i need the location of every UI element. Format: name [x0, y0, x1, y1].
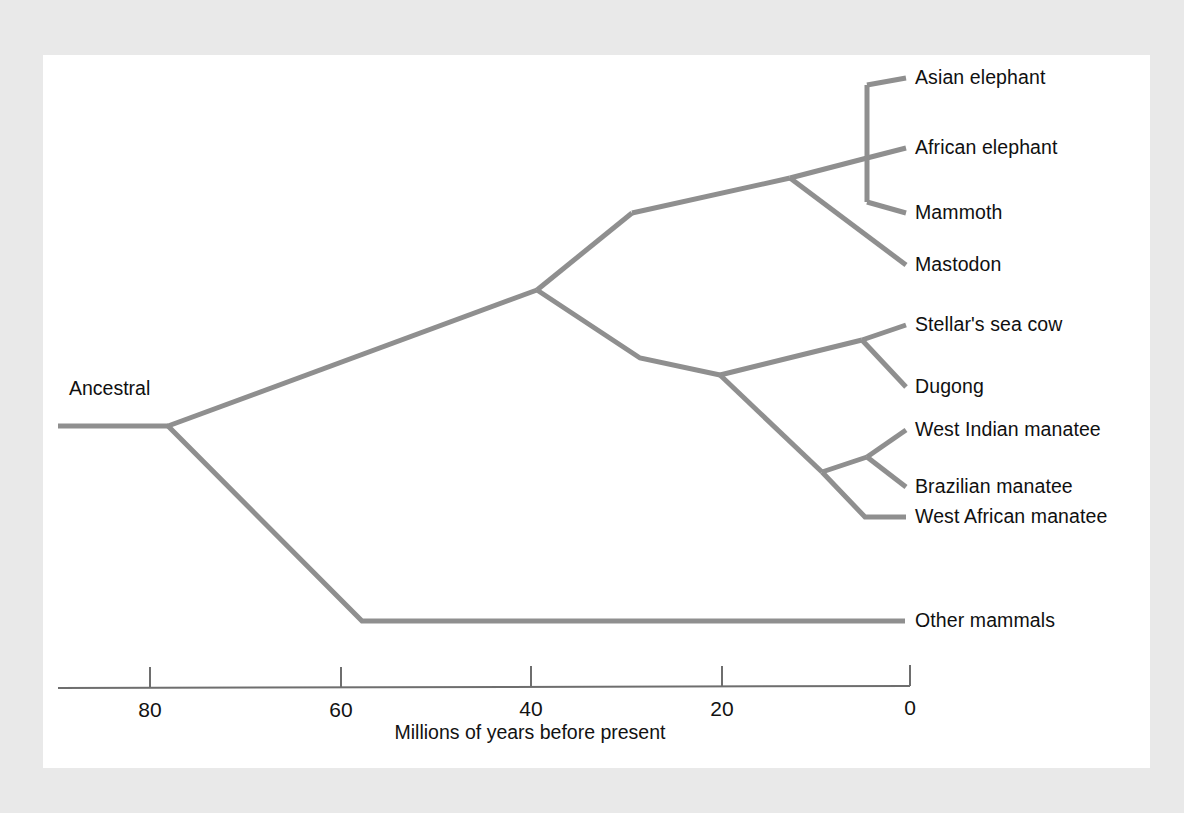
axis-tick-label-0: 0: [904, 697, 916, 718]
tree-branches: [58, 78, 906, 621]
branch-trichechidae-stem: [720, 375, 822, 472]
tip-label-brazilian-manatee: Brazilian manatee: [915, 477, 1073, 497]
tree-drawing: [0, 0, 1184, 813]
tip-label-mammoth: Mammoth: [915, 203, 1002, 223]
axis-title: Millions of years before present: [395, 723, 666, 743]
axis-tick-label-60: 60: [329, 699, 352, 720]
tip-label-other-mammals: Other mammals: [915, 611, 1055, 631]
tip-label-asian-elephant: Asian elephant: [915, 68, 1045, 88]
tip-label-dugong: Dugong: [915, 377, 984, 397]
tip-label-african-elephant: African elephant: [915, 138, 1058, 158]
branch-manatee-crown-stem: [822, 457, 867, 472]
phylogenetic-tree-figure: Ancestral Asian elephant African elephan…: [0, 0, 1184, 813]
branch-west-indian-manatee: [867, 430, 906, 457]
branch-root-to-other-mammals: [168, 426, 905, 621]
branch-root-to-tethytheria: [168, 290, 537, 426]
tip-label-stellars-sea-cow: Stellar's sea cow: [915, 315, 1062, 335]
branch-dugongidae-stem: [720, 340, 862, 375]
branch-dugong: [862, 340, 906, 387]
branch-mastodon: [790, 178, 906, 265]
axis-tick-label-40: 40: [519, 698, 542, 719]
branch-asian-elephant: [867, 78, 906, 85]
branch-tethytheria-to-proboscidea: [537, 213, 632, 290]
ancestral-node-label: Ancestral: [69, 379, 150, 399]
branch-proboscidea-trunk: [632, 178, 790, 213]
tip-label-west-indian-manatee: West Indian manatee: [915, 420, 1101, 440]
axis-tick-label-20: 20: [710, 698, 733, 719]
tip-label-mastodon: Mastodon: [915, 255, 1001, 275]
branch-mammoth: [867, 202, 906, 213]
branch-elephantid-stem: [790, 158, 867, 178]
branch-african-elephant: [867, 148, 906, 158]
time-axis: [58, 665, 910, 688]
axis-line: [58, 686, 910, 688]
axis-tick-label-80: 80: [138, 699, 161, 720]
branch-brazilian-manatee: [867, 457, 906, 487]
branch-stellars-sea-cow: [862, 325, 906, 340]
tip-label-west-african-manatee: West African manatee: [915, 507, 1107, 527]
branch-tethytheria-to-sirenia: [537, 290, 720, 375]
